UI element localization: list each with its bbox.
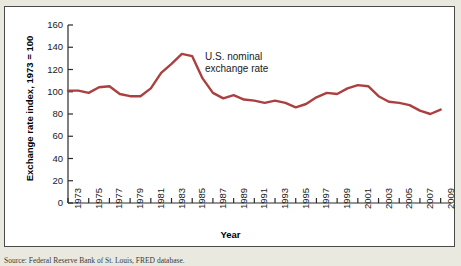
x-axis-title: Year bbox=[5, 229, 456, 240]
x-tick-label: 1981 bbox=[155, 175, 166, 209]
y-tick-label: 160 bbox=[37, 20, 63, 30]
x-tick-label: 1983 bbox=[176, 175, 187, 209]
x-tick-label: 2003 bbox=[383, 175, 394, 209]
x-tick-label: 1973 bbox=[72, 175, 83, 209]
y-tick-label: 20 bbox=[37, 176, 63, 186]
y-tick-label: 140 bbox=[37, 42, 63, 52]
x-tick-label: 1991 bbox=[258, 175, 269, 209]
source-note: Source: Federal Reserve Bank of St. Loui… bbox=[4, 256, 456, 265]
y-tick-label: 100 bbox=[37, 87, 63, 97]
y-axis-tick-labels: 020406080100120140160 bbox=[35, 7, 63, 248]
x-tick-label: 1995 bbox=[300, 175, 311, 209]
x-tick-label: 1975 bbox=[93, 175, 104, 209]
x-tick-label: 1977 bbox=[113, 175, 124, 209]
y-axis-title: Exchange rate index, 1973 = 100 bbox=[24, 19, 35, 199]
x-tick-label: 1987 bbox=[217, 175, 228, 209]
y-tick-label: 40 bbox=[37, 154, 63, 164]
x-tick-label: 1985 bbox=[196, 175, 207, 209]
y-tick-label: 120 bbox=[37, 65, 63, 75]
x-tick-label: 2001 bbox=[362, 175, 373, 209]
x-tick-label: 2005 bbox=[403, 175, 414, 209]
series-annotation-label: U.S. nominal exchange rate bbox=[205, 51, 268, 75]
x-tick-label: 1999 bbox=[341, 175, 352, 209]
y-tick-label: 80 bbox=[37, 109, 63, 119]
chart-figure-frame: Exchange rate index, 1973 = 100 02040608… bbox=[4, 6, 455, 247]
y-tick-label: 60 bbox=[37, 131, 63, 141]
y-tick-label: 0 bbox=[37, 198, 63, 208]
x-tick-label: 1989 bbox=[238, 175, 249, 209]
x-tick-label: 2009 bbox=[445, 175, 456, 209]
x-tick-label: 1997 bbox=[320, 175, 331, 209]
x-tick-label: 1979 bbox=[134, 175, 145, 209]
x-tick-label: 2007 bbox=[424, 175, 435, 209]
x-axis-tick-labels: 1973197519771979198119831985198719891991… bbox=[64, 207, 454, 247]
x-tick-label: 1993 bbox=[279, 175, 290, 209]
